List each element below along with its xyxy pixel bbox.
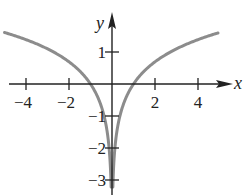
- x-axis-label: x: [233, 73, 242, 93]
- axes-group: x y: [9, 12, 242, 195]
- x-ticks-group: −4−224: [14, 78, 203, 112]
- y-tick-label: 1: [98, 43, 107, 62]
- x-tick-label: 4: [194, 93, 203, 112]
- curve-group: [5, 33, 219, 188]
- y-axis-label: y: [94, 13, 104, 33]
- chart-plot: x y −4−224 1−1−2−3: [0, 0, 247, 195]
- x-tick-label: −4: [14, 93, 33, 112]
- x-tick-label: −2: [57, 93, 75, 112]
- y-tick-label: −1: [88, 107, 106, 126]
- y-tick-label: −3: [88, 171, 106, 190]
- y-tick-label: −2: [88, 139, 106, 158]
- x-tick-label: 2: [151, 93, 160, 112]
